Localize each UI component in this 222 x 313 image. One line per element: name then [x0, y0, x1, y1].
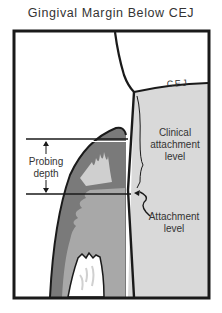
gingival-diagram: CEJ Clinical attachment level Probing de…: [0, 0, 222, 313]
clinical-attachment-label-3: level: [165, 151, 186, 162]
attachment-level-label-2: level: [164, 223, 185, 234]
attachment-level-label-1: Attachment: [149, 211, 200, 222]
probing-depth-label-1: Probing: [29, 156, 63, 167]
clinical-attachment-label-1: Clinical: [159, 127, 191, 138]
probing-depth-label-2: depth: [33, 168, 58, 179]
cej-label: CEJ: [166, 78, 188, 89]
clinical-attachment-label-2: attachment: [150, 139, 200, 150]
